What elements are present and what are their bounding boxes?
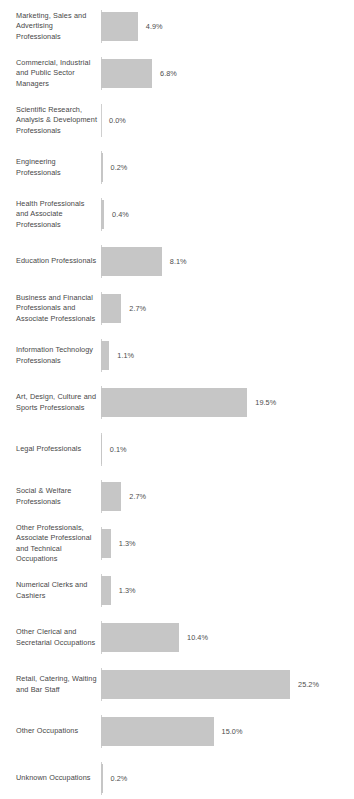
category-label: Business and Financial Professionals and… [0, 293, 101, 324]
bar-row: Retail, Catering, Waiting and Bar Staff2… [0, 661, 354, 708]
value-label: 1.1% [117, 351, 134, 361]
value-label: 2.7% [129, 492, 146, 502]
bar-row: Art, Design, Culture and Sports Professi… [0, 379, 354, 426]
category-label: Scientific Research, Analysis & Developm… [0, 105, 101, 136]
category-label: Marketing, Sales and Advertising Profess… [0, 11, 101, 42]
bar-track: 25.2% [101, 661, 354, 708]
value-label: 10.4% [187, 633, 208, 643]
category-label: Education Professionals [0, 256, 101, 266]
chart-plot-region: Marketing, Sales and Advertising Profess… [0, 3, 354, 799]
category-label: Health Professionals and Associate Profe… [0, 199, 101, 230]
value-label: 19.5% [255, 398, 276, 408]
bar-track: 4.9% [101, 3, 354, 50]
bar-row: Marketing, Sales and Advertising Profess… [0, 3, 354, 50]
category-label: Retail, Catering, Waiting and Bar Staff [0, 674, 101, 695]
bar[interactable] [101, 200, 104, 229]
category-label: Social & Welfare Professionals [0, 486, 101, 507]
value-label: 0.2% [111, 163, 128, 173]
category-label: Other Occupations [0, 726, 101, 736]
bar[interactable] [101, 482, 121, 511]
bar[interactable] [101, 717, 214, 746]
category-label: Unknown Occupations [0, 773, 101, 783]
bar-row: Legal Professionals0.1% [0, 426, 354, 473]
bar-row: Unknown Occupations0.2% [0, 755, 354, 799]
bar-row: Commercial, Industrial and Public Sector… [0, 50, 354, 97]
value-label: 25.2% [298, 680, 319, 690]
bar[interactable] [101, 294, 121, 323]
value-label: 0.2% [111, 774, 128, 784]
bar-row: Education Professionals8.1% [0, 238, 354, 285]
value-label: 15.0% [222, 727, 243, 737]
category-label: Other Clerical and Secretarial Occupatio… [0, 627, 101, 648]
value-label: 4.9% [146, 22, 163, 32]
bar-track: 1.1% [101, 332, 354, 379]
value-label: 1.3% [119, 539, 136, 549]
value-label: 6.8% [160, 69, 177, 79]
bar-row: Scientific Research, Analysis & Developm… [0, 97, 354, 144]
category-label: Engineering Professionals [0, 157, 101, 178]
bar-track: 0.0% [101, 97, 354, 144]
bar-track: 6.8% [101, 50, 354, 97]
value-label: 8.1% [170, 257, 187, 267]
bar-track: 2.7% [101, 473, 354, 520]
bar-track: 0.2% [101, 144, 354, 191]
category-label: Numerical Clerks and Cashiers [0, 580, 101, 601]
bar-track: 1.3% [101, 567, 354, 614]
value-label: 0.1% [110, 445, 127, 455]
bar-row: Health Professionals and Associate Profe… [0, 191, 354, 238]
bar-row: Business and Financial Professionals and… [0, 285, 354, 332]
value-label: 0.4% [112, 210, 129, 220]
axis-tick [101, 104, 102, 137]
bar[interactable] [101, 388, 247, 417]
category-label: Legal Professionals [0, 444, 101, 454]
bar-row: Information Technology Professionals1.1% [0, 332, 354, 379]
bar[interactable] [101, 341, 109, 370]
value-label: 0.0% [109, 116, 126, 126]
bar-track: 19.5% [101, 379, 354, 426]
bar-track: 2.7% [101, 285, 354, 332]
bar[interactable] [101, 59, 152, 88]
value-label: 1.3% [119, 586, 136, 596]
bar[interactable] [101, 529, 111, 558]
bar-row: Engineering Professionals0.2% [0, 144, 354, 191]
bar-track: 0.1% [101, 426, 354, 473]
bar-row: Social & Welfare Professionals2.7% [0, 473, 354, 520]
bar-track: 15.0% [101, 708, 354, 755]
bar[interactable] [101, 764, 103, 793]
bar[interactable] [101, 670, 290, 699]
value-label: 2.7% [129, 304, 146, 314]
bar[interactable] [101, 576, 111, 605]
bar-track: 10.4% [101, 614, 354, 661]
bar-row: Numerical Clerks and Cashiers1.3% [0, 567, 354, 614]
bar-track: 8.1% [101, 238, 354, 285]
bar-track: 1.3% [101, 520, 354, 567]
category-label: Art, Design, Culture and Sports Professi… [0, 392, 101, 413]
bar-row: Other Clerical and Secretarial Occupatio… [0, 614, 354, 661]
bar-track: 0.2% [101, 755, 354, 799]
category-label: Information Technology Professionals [0, 345, 101, 366]
bar-track: 0.4% [101, 191, 354, 238]
bar-row: Other Occupations15.0% [0, 708, 354, 755]
category-label: Commercial, Industrial and Public Sector… [0, 58, 101, 89]
bar-row: Other Professionals, Associate Professio… [0, 520, 354, 567]
bar[interactable] [101, 247, 162, 276]
bar[interactable] [101, 12, 138, 41]
category-label: Other Professionals, Associate Professio… [0, 523, 101, 565]
bar[interactable] [101, 153, 103, 182]
bar[interactable] [101, 623, 179, 652]
bar[interactable] [101, 435, 102, 464]
